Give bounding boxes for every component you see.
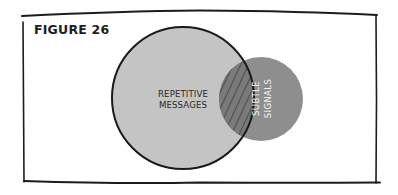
figure-title: FIGURE 26 — [34, 24, 109, 37]
repetitive-messages-label: REPETITIVE MESSAGES — [143, 89, 223, 111]
repetitive-messages-label-line1: REPETITIVE — [143, 89, 223, 100]
subtle-signals-label-rotated: SUBTLE SIGNALS — [251, 59, 274, 139]
subtle-signals-label-line1: SUBTLE — [251, 59, 263, 139]
figure-canvas: FIGURE 26 REPETITIVE MESSAGES SUBTLE SIG… — [0, 0, 398, 195]
subtle-signals-label-line2: SIGNALS — [262, 59, 274, 139]
repetitive-messages-label-line2: MESSAGES — [143, 100, 223, 111]
